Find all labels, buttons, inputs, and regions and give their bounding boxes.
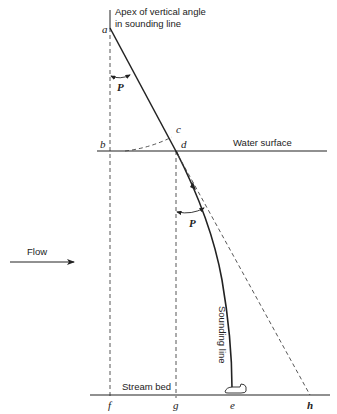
point-h-label: h — [307, 399, 313, 411]
point-c-label: c — [176, 123, 181, 135]
sounding-weight-icon — [225, 384, 246, 393]
point-a-label: a — [102, 23, 108, 35]
lower-angle-arc — [177, 208, 204, 213]
water-surface-label: Water surface — [233, 137, 292, 148]
sounding-line-diagram: Apex of vertical angle in sounding line … — [0, 0, 337, 414]
stream-bed-label: Stream bed — [122, 381, 171, 392]
apex-annotation-line1: Apex of vertical angle — [115, 6, 206, 17]
sounding-line-label: Sounding line — [217, 306, 228, 364]
point-b-label: b — [100, 138, 106, 150]
point-g-label: g — [173, 399, 179, 411]
tangent-line-d-h — [178, 155, 310, 395]
apex-annotation-line2: in sounding line — [115, 18, 181, 29]
lower-angle-label: P — [189, 217, 196, 229]
point-d-label: d — [181, 138, 187, 150]
upper-angle-arc — [111, 75, 130, 78]
flow-label: Flow — [27, 246, 47, 257]
arc-b-c — [125, 137, 172, 151]
point-e-label: e — [230, 399, 235, 411]
point-f-label: f — [108, 399, 113, 411]
upper-angle-label: P — [117, 81, 124, 93]
